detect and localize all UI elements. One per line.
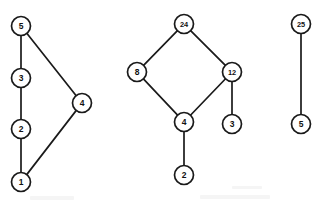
graph-edge <box>27 110 77 175</box>
graph-node[interactable]: 8 <box>128 63 147 82</box>
edges-layer <box>21 30 301 175</box>
graph-edge <box>190 78 226 115</box>
node-circle[interactable] <box>12 17 31 36</box>
graph-node[interactable]: 3 <box>12 69 31 88</box>
graph-node[interactable]: 1 <box>12 173 31 192</box>
node-circle[interactable] <box>223 63 242 82</box>
graph-edge <box>143 79 178 116</box>
node-circle[interactable] <box>12 173 31 192</box>
graph-node[interactable]: 2 <box>175 166 194 185</box>
node-circle[interactable] <box>128 63 147 82</box>
node-circle[interactable] <box>12 120 31 139</box>
graph-node[interactable]: 4 <box>175 113 194 132</box>
node-circle[interactable] <box>12 69 31 88</box>
graph-node[interactable]: 5 <box>12 17 31 36</box>
node-circle[interactable] <box>175 15 194 34</box>
graph-node[interactable]: 24 <box>175 15 194 34</box>
graph-edge <box>190 30 225 65</box>
node-circle[interactable] <box>292 115 311 134</box>
node-circle[interactable] <box>292 15 311 34</box>
graph-edge <box>143 30 177 65</box>
node-circle[interactable] <box>175 166 194 185</box>
graph-node[interactable]: 4 <box>73 94 92 113</box>
graph-node[interactable]: 5 <box>292 115 311 134</box>
graph-canvas: 5321424812432255 <box>0 0 322 204</box>
graph-node[interactable]: 12 <box>223 63 242 82</box>
graph-edge <box>27 33 77 96</box>
node-circle[interactable] <box>223 115 242 134</box>
node-circle[interactable] <box>73 94 92 113</box>
graph-node[interactable]: 3 <box>223 115 242 134</box>
graph-node[interactable]: 25 <box>292 15 311 34</box>
nodes-layer: 5321424812432255 <box>12 15 311 192</box>
node-circle[interactable] <box>175 113 194 132</box>
graph-figure: 5321424812432255 <box>0 0 322 204</box>
graph-node[interactable]: 2 <box>12 120 31 139</box>
